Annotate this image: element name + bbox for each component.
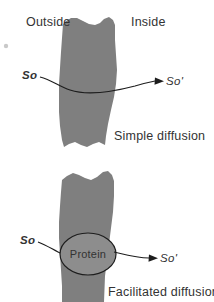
diffusion-flow-line-bottom-out (114, 252, 149, 258)
diffusion-arrowhead-top (155, 78, 165, 85)
panel-simple-diffusion: Outside Inside So So' Simple diffusion (22, 15, 205, 147)
scan-speck (4, 44, 8, 48)
caption-facilitated-diffusion: Facilitated diffusion (108, 285, 214, 299)
membrane-simple-diffusion (59, 17, 117, 147)
label-solute-outside-bottom: So (20, 234, 35, 246)
label-inside: Inside (131, 15, 166, 29)
label-outside: Outside (26, 15, 70, 29)
caption-simple-diffusion: Simple diffusion (114, 129, 205, 143)
panel-facilitated-diffusion: So Protein So' Facilitated diffusion (20, 171, 214, 302)
label-solute-inside-bottom: So' (160, 252, 178, 264)
label-protein: Protein (70, 248, 106, 260)
diffusion-arrowhead-bottom (149, 255, 159, 262)
membrane-transport-diagram: Outside Inside So So' Simple diffusion S… (0, 0, 214, 302)
label-solute-outside-top: So (22, 69, 37, 81)
label-solute-inside-top: So' (166, 75, 184, 87)
